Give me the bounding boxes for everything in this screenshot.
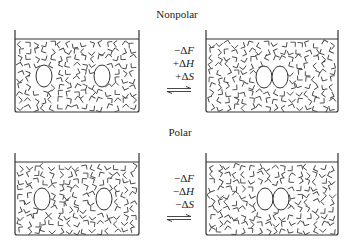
water-molecule: [225, 68, 231, 74]
water-molecule: [224, 199, 231, 206]
water-molecule: [49, 220, 54, 225]
beaker-polar-associated: [203, 151, 343, 239]
water-molecule: [58, 214, 64, 220]
water-molecule: [80, 207, 87, 214]
water-molecule: [88, 199, 95, 206]
water-molecule: [208, 96, 214, 102]
water-molecule: [218, 199, 224, 205]
water-molecule: [215, 62, 222, 69]
water-molecule: [16, 76, 23, 83]
water-molecule: [42, 212, 49, 219]
water-molecule: [97, 97, 103, 103]
water-molecule: [239, 42, 245, 48]
water-molecule: [58, 221, 63, 226]
water-molecule: [312, 91, 318, 97]
delta-s: −ΔS: [154, 198, 194, 211]
water-molecule: [83, 200, 89, 205]
water-molecule: [131, 216, 136, 221]
water-molecule: [224, 98, 229, 103]
equilibrium-arrow-icon: [166, 214, 192, 222]
water-molecule: [288, 215, 294, 221]
water-molecule: [120, 71, 127, 78]
water-molecule: [19, 49, 24, 54]
water-molecule: [115, 206, 121, 212]
water-molecule: [51, 205, 58, 211]
water-molecule: [33, 90, 39, 95]
water-molecule: [207, 192, 214, 199]
water-molecule: [89, 61, 96, 68]
water-molecule: [306, 77, 311, 82]
water-molecule: [298, 194, 303, 199]
water-molecule: [218, 186, 224, 193]
water-molecule: [115, 179, 121, 184]
water-molecule: [297, 177, 303, 184]
water-molecule: [320, 187, 327, 193]
water-molecule: [33, 57, 40, 63]
water-molecule: [113, 221, 120, 228]
water-molecule: [240, 76, 246, 81]
water-molecule: [234, 92, 239, 97]
water-molecule: [24, 64, 30, 70]
water-molecule: [247, 64, 253, 71]
water-molecule: [215, 206, 222, 213]
water-molecule: [314, 97, 319, 103]
water-molecule: [215, 84, 222, 91]
water-molecule: [122, 104, 129, 111]
water-molecule: [73, 76, 80, 83]
water-molecule: [113, 55, 119, 61]
water-molecule: [65, 200, 71, 206]
water-molecule: [129, 85, 135, 91]
water-molecule: [72, 185, 79, 192]
water-molecule: [256, 228, 262, 235]
water-molecule: [239, 185, 246, 192]
water-molecule: [248, 83, 254, 89]
water-molecule: [121, 192, 127, 198]
water-molecule: [91, 206, 96, 211]
water-molecule: [263, 172, 270, 179]
water-molecule: [216, 165, 222, 172]
water-molecule: [271, 40, 278, 46]
water-molecule: [57, 228, 63, 235]
beaker-nonpolar-separated: [12, 28, 142, 116]
water-molecule: [224, 49, 229, 54]
water-molecule: [225, 226, 232, 233]
water-molecule: [217, 179, 224, 185]
water-molecule: [295, 198, 301, 205]
water-molecule: [226, 92, 232, 97]
water-molecule: [256, 104, 263, 111]
water-molecule: [223, 193, 229, 199]
water-molecule: [80, 41, 86, 47]
water-molecule: [90, 56, 97, 63]
water-molecule: [67, 220, 74, 227]
water-molecule: [247, 90, 253, 96]
water-molecule: [65, 70, 70, 75]
water-molecule: [271, 104, 277, 111]
water-molecule: [112, 82, 119, 89]
water-molecule: [303, 191, 310, 198]
water-molecule: [130, 163, 137, 170]
water-molecule: [329, 178, 336, 185]
water-molecule: [113, 213, 120, 220]
water-molecule: [274, 56, 280, 62]
water-molecule: [88, 49, 95, 56]
water-molecule: [72, 192, 78, 198]
solute-molecule: [257, 188, 273, 210]
water-molecule: [25, 42, 30, 47]
water-molecule: [217, 105, 223, 111]
water-molecule: [130, 205, 137, 212]
water-molecule: [265, 179, 272, 186]
water-molecule: [210, 171, 217, 178]
water-molecule: [208, 104, 214, 111]
water-molecule: [322, 91, 329, 98]
water-molecule: [122, 41, 129, 48]
water-molecule: [33, 178, 39, 183]
polar-title: Polar: [140, 126, 220, 138]
water-molecule: [225, 61, 232, 68]
water-molecule: [247, 221, 254, 228]
water-molecule: [82, 103, 88, 109]
water-molecule: [114, 69, 119, 74]
water-molecule: [80, 55, 86, 61]
water-molecule: [81, 69, 87, 74]
water-molecule: [129, 43, 134, 48]
water-molecule: [305, 104, 311, 110]
